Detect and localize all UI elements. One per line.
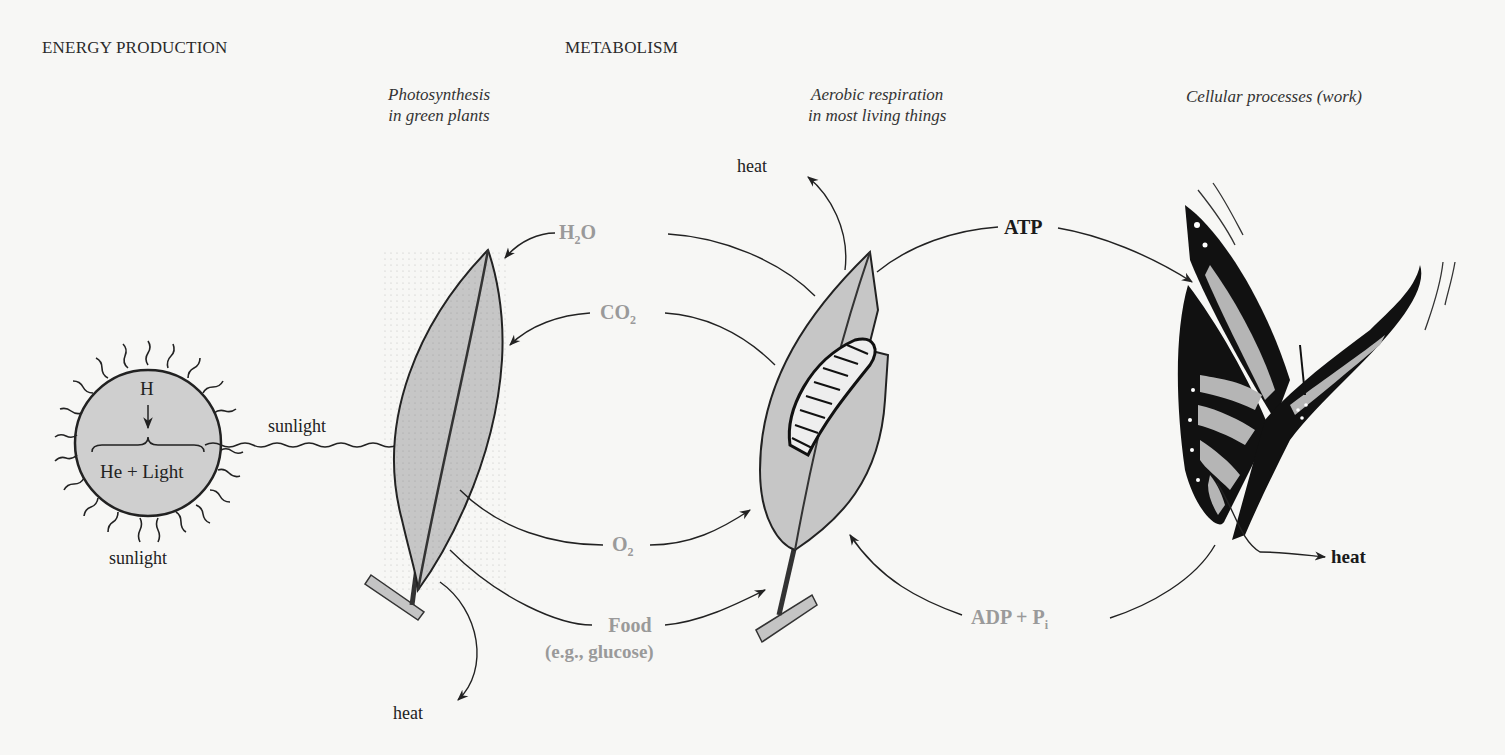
h2o-tail: O (581, 221, 597, 243)
food-label: Food (597, 614, 663, 637)
adp-sub: i (1045, 618, 1048, 632)
co2-sub: 2 (630, 313, 636, 327)
o2-sub: 2 (628, 545, 634, 559)
sun-hydrogen-label: H (140, 378, 154, 400)
adp-pi-label: ADP + Pi (971, 606, 1048, 633)
sun-helium-light-label: He + Light (100, 461, 184, 483)
sunlight-label: sunlight (109, 548, 167, 569)
sun-icon (55, 341, 427, 542)
h2o-label: H2O (559, 221, 596, 248)
heat-label-plant: heat (393, 703, 423, 724)
co2-label: CO2 (600, 301, 636, 328)
heat-label-butterfly: heat (1331, 546, 1366, 568)
h2o-main: H (559, 221, 575, 243)
co2-main: CO (600, 301, 630, 323)
atp-label: ATP (1004, 216, 1043, 239)
heat-label-respiration: heat (737, 156, 767, 177)
leaf-icon (365, 250, 510, 620)
sunlight-ray-label: sunlight (268, 416, 326, 437)
o2-label: O2 (612, 533, 634, 560)
diagram-canvas (0, 0, 1505, 755)
caterpillar-leaf-icon (756, 252, 888, 642)
o2-main: O (612, 533, 628, 555)
food-example-label: (e.g., glucose) (545, 641, 654, 663)
adp-main: ADP + P (971, 606, 1045, 628)
